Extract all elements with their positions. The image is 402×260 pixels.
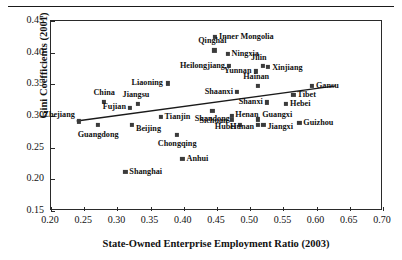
- y-axis-tick-label: 0.20: [4, 173, 44, 183]
- data-point-label: Hainan: [243, 73, 269, 81]
- plot-area: ZhejiangGuangdongChinaFujianJiangsuBeiji…: [50, 20, 382, 210]
- plot-inner: ZhejiangGuangdongChinaFujianJiangsuBeiji…: [51, 21, 381, 209]
- x-axis-tick-mark: [283, 207, 284, 211]
- data-point-label: Hunan: [230, 123, 254, 131]
- data-point-label: Hebei: [290, 100, 310, 108]
- data-point-label: Chongqing: [158, 140, 197, 148]
- data-point-label: Tianjin: [165, 113, 191, 121]
- data-point-label: Tibet: [297, 91, 316, 99]
- data-point-label: Xinjiang: [272, 64, 302, 72]
- x-axis-tick-mark: [151, 207, 152, 211]
- data-point-marker: [96, 123, 100, 127]
- data-point-marker: [265, 100, 269, 104]
- x-axis-tick-mark: [51, 207, 52, 211]
- data-point-marker: [291, 93, 295, 97]
- y-axis-tick-label: 0.40: [4, 47, 44, 57]
- x-axis-tick-mark: [117, 207, 118, 211]
- x-axis-tick-mark: [383, 207, 384, 211]
- y-axis-tick-label: 0.30: [4, 110, 44, 120]
- data-point-label: China: [93, 89, 114, 97]
- y-axis-tick-label: 0.35: [4, 78, 44, 88]
- data-point-label: Liaoning: [131, 79, 162, 87]
- data-point-marker: [180, 157, 184, 161]
- data-point-marker: [77, 119, 81, 123]
- data-point-label: Shaanxi: [205, 88, 233, 96]
- y-axis-tick-mark: [51, 84, 55, 85]
- data-point-label: Anhui: [186, 155, 208, 163]
- data-point-label: Henan: [235, 111, 258, 119]
- data-point-label: Guangdong: [78, 131, 119, 139]
- data-point-marker: [297, 121, 301, 125]
- data-point-label: Jiangsu: [123, 91, 150, 99]
- data-point-marker: [256, 123, 260, 127]
- x-axis-tick-mark: [350, 207, 351, 211]
- data-point-marker: [256, 84, 260, 88]
- x-axis-tick-label: 0.70: [362, 215, 402, 225]
- data-point-label: Heilongjiang: [180, 62, 225, 70]
- y-axis-tick-mark: [51, 148, 55, 149]
- top-rule-divider: [8, 6, 394, 7]
- data-point-label: Shanghai: [129, 168, 162, 176]
- data-point-marker: [175, 133, 179, 137]
- x-axis-tick-mark: [317, 207, 318, 211]
- data-point-marker: [261, 64, 265, 68]
- data-point-label: Shanxi: [239, 98, 263, 106]
- y-axis-tick-label: 0.25: [4, 142, 44, 152]
- data-point-label: Jilin: [251, 54, 266, 62]
- data-point-label: Gansu: [316, 82, 339, 90]
- data-point-marker: [166, 81, 170, 85]
- data-point-marker: [130, 123, 134, 127]
- x-axis-tick-mark: [84, 207, 85, 211]
- data-point-label: Fujian: [103, 103, 126, 111]
- data-point-marker: [310, 84, 314, 88]
- x-axis-tick-mark: [250, 207, 251, 211]
- data-point-marker: [284, 102, 288, 106]
- data-point-label: Zhejiang: [43, 111, 74, 119]
- y-axis-tick-label: 0.15: [4, 205, 44, 215]
- y-axis-tick-mark: [51, 211, 55, 212]
- data-point-label: Qinghai: [198, 37, 226, 45]
- x-axis-label: State-Owned Enterprise Employment Ratio …: [50, 238, 382, 249]
- data-point-label: Guangxi: [262, 111, 292, 119]
- data-point-marker: [136, 102, 140, 106]
- x-axis-tick-mark: [184, 207, 185, 211]
- data-point-marker: [235, 90, 239, 94]
- y-axis-tick-mark: [51, 179, 55, 180]
- data-point-marker: [128, 106, 132, 110]
- data-point-marker: [261, 123, 265, 127]
- data-point-label: Beijing: [136, 125, 161, 133]
- x-axis-tick-mark: [217, 207, 218, 211]
- data-point-marker: [256, 117, 260, 121]
- data-point-marker: [226, 52, 230, 56]
- y-axis-tick-mark: [51, 21, 55, 22]
- data-point-label: Jiangxi: [267, 123, 292, 131]
- data-point-label: Inner Mongolia: [219, 32, 274, 40]
- data-point-marker: [210, 109, 214, 113]
- figure-container: Gini Coefficients (2001) State-Owned Ent…: [0, 0, 402, 260]
- data-point-marker: [158, 115, 162, 119]
- y-axis-tick-mark: [51, 53, 55, 54]
- y-axis-tick-label: 0.45: [4, 15, 44, 25]
- data-point-label: Guizhou: [303, 119, 333, 127]
- data-point-marker: [123, 170, 127, 174]
- data-point-marker: [266, 65, 270, 69]
- data-point-marker: [212, 48, 216, 52]
